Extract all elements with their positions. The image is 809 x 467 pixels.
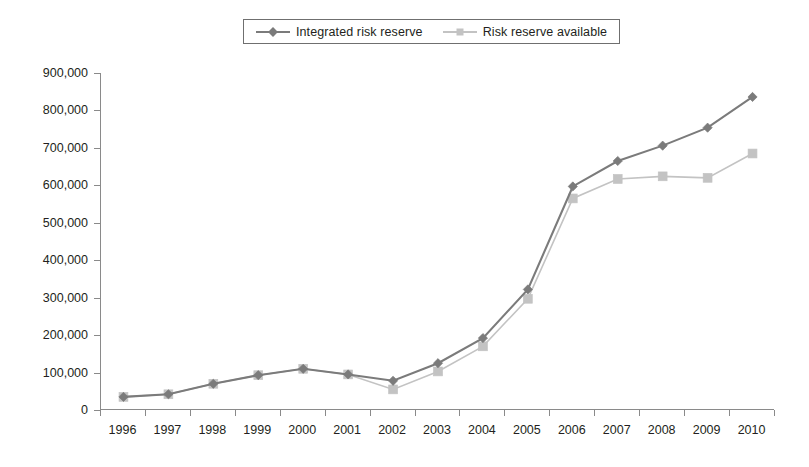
x-axis-tick-label: 2007: [603, 423, 631, 437]
square-marker-icon: [658, 172, 667, 181]
legend-label-integrated-risk-reserve: Integrated risk reserve: [296, 25, 423, 39]
y-axis-tick-mark: [94, 373, 100, 374]
x-axis-tick-label: 2000: [288, 423, 316, 437]
y-axis: 0100,000200,000300,000400,000500,000600,…: [0, 0, 88, 467]
line-chart: Integrated risk reserve Risk reserve ava…: [0, 0, 809, 467]
y-axis-tick-label: 900,000: [43, 66, 88, 80]
diamond-marker-icon: [433, 359, 442, 368]
square-marker-icon: [703, 173, 712, 182]
y-axis-tick-mark: [94, 223, 100, 224]
x-axis-tick-mark: [145, 410, 146, 416]
y-axis-tick-label: 300,000: [43, 291, 88, 305]
x-axis-tick-label: 2002: [378, 423, 406, 437]
y-axis-tick-mark: [94, 410, 100, 411]
legend-label-risk-reserve-available: Risk reserve available: [483, 25, 607, 39]
x-axis-tick-label: 2006: [558, 423, 586, 437]
y-axis-tick-mark: [94, 260, 100, 261]
y-axis-tick-label: 0: [81, 403, 88, 417]
x-axis-tick-label: 2003: [423, 423, 451, 437]
x-axis-tick-mark: [549, 410, 550, 416]
x-axis-tick-label: 2005: [513, 423, 541, 437]
y-axis-tick-label: 100,000: [43, 366, 88, 380]
y-axis-tick-mark: [94, 110, 100, 111]
chart-legend: Integrated risk reserve Risk reserve ava…: [243, 19, 620, 44]
x-axis-tick-label: 1999: [243, 423, 271, 437]
y-axis-tick-label: 600,000: [43, 178, 88, 192]
diamond-marker-icon: [658, 141, 667, 150]
square-marker-icon: [748, 149, 757, 158]
data-series-layer: [101, 73, 775, 410]
series-line: [123, 97, 752, 397]
x-axis-tick-label: 2001: [333, 423, 361, 437]
legend-entry-integrated-risk-reserve: Integrated risk reserve: [256, 25, 423, 39]
legend-swatch-square-icon: [443, 26, 477, 37]
x-axis-tick-mark: [684, 410, 685, 416]
diamond-marker-icon: [568, 182, 577, 191]
x-axis-tick-mark: [370, 410, 371, 416]
x-axis-tick-label: 1998: [198, 423, 226, 437]
plot-area: [100, 73, 774, 410]
x-axis-tick-mark: [100, 410, 101, 416]
x-axis-tick-mark: [235, 410, 236, 416]
x-axis-tick-mark: [774, 410, 775, 416]
x-axis-tick-label: 2009: [693, 423, 721, 437]
x-axis-tick-mark: [280, 410, 281, 416]
x-axis-tick-label: 2010: [738, 423, 766, 437]
square-marker-icon: [523, 294, 532, 303]
x-axis-tick-mark: [190, 410, 191, 416]
x-axis-tick-mark: [639, 410, 640, 416]
x-axis-tick-mark: [459, 410, 460, 416]
x-axis-tick-label: 1996: [109, 423, 137, 437]
y-axis-tick-mark: [94, 148, 100, 149]
diamond-marker-icon: [268, 27, 278, 37]
x-axis-tick-mark: [415, 410, 416, 416]
square-marker-icon: [456, 28, 463, 35]
square-marker-icon: [434, 367, 443, 376]
x-axis-tick-mark: [504, 410, 505, 416]
series-integrated-risk-reserve: [119, 92, 757, 401]
x-axis-tick-mark: [325, 410, 326, 416]
y-axis-tick-mark: [94, 298, 100, 299]
y-axis-tick-mark: [94, 335, 100, 336]
x-axis-tick-label: 2008: [648, 423, 676, 437]
y-axis-tick-mark: [94, 73, 100, 74]
square-marker-icon: [389, 385, 398, 394]
x-axis-tick-label: 1997: [153, 423, 181, 437]
x-axis-tick-label: 2004: [468, 423, 496, 437]
y-axis-tick-label: 800,000: [43, 103, 88, 117]
diamond-marker-icon: [388, 376, 397, 385]
y-axis-tick-label: 500,000: [43, 216, 88, 230]
y-axis-tick-label: 700,000: [43, 141, 88, 155]
y-axis-tick-label: 400,000: [43, 253, 88, 267]
x-axis-tick-mark: [594, 410, 595, 416]
y-axis-tick-label: 200,000: [43, 328, 88, 342]
legend-entry-risk-reserve-available: Risk reserve available: [443, 25, 607, 39]
legend-swatch-diamond-icon: [256, 26, 290, 37]
diamond-marker-icon: [613, 156, 622, 165]
square-marker-icon: [613, 175, 622, 184]
x-axis-tick-mark: [729, 410, 730, 416]
y-axis-tick-mark: [94, 185, 100, 186]
square-marker-icon: [479, 342, 488, 351]
